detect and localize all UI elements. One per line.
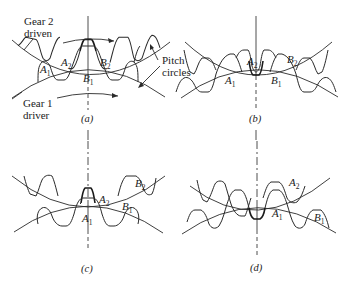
pitch-label: Pitch xyxy=(162,54,185,66)
gear1-label: Gear 1 xyxy=(23,97,53,109)
circles-label: circles xyxy=(162,66,191,78)
gear2-label: Gear 2 xyxy=(24,15,54,27)
gear1-leader xyxy=(12,92,22,99)
panel-a: Gear 2 driven Gear 1 driver Pitch circle… xyxy=(12,15,191,140)
label-A2: A2 xyxy=(288,176,300,191)
label-A1: A1 xyxy=(81,212,93,227)
gear2-leader xyxy=(24,39,33,50)
gear1-rotation-arrow xyxy=(57,93,118,98)
label-A1: A1 xyxy=(271,207,283,222)
pitch-leader-lower xyxy=(140,66,160,86)
gear-meshing-diagram: Gear 2 driven Gear 1 driver Pitch circle… xyxy=(0,0,350,283)
arrowhead-icon xyxy=(150,44,154,50)
label-B2: B2 xyxy=(135,177,146,192)
caption-d: (d) xyxy=(250,262,263,274)
pitch-circle-gear1 xyxy=(182,208,336,234)
caption-b: (b) xyxy=(249,113,262,125)
label-A2: A2 xyxy=(60,56,72,71)
gear1-teeth xyxy=(187,190,329,228)
gear2-role-label: driven xyxy=(24,27,53,39)
panel-d: A2 A1 B1 (d) xyxy=(182,141,336,274)
label-A1: A1 xyxy=(224,74,236,89)
caption-a: (a) xyxy=(81,113,94,125)
panel-c: A2 A1 B2 B1 (c) xyxy=(12,141,165,275)
label-B1: B1 xyxy=(271,74,282,89)
caption-c: (c) xyxy=(81,263,93,275)
panel-b: A1 A2 B1 B2 (b) xyxy=(176,16,338,140)
gear1-role-label: driver xyxy=(23,109,50,121)
